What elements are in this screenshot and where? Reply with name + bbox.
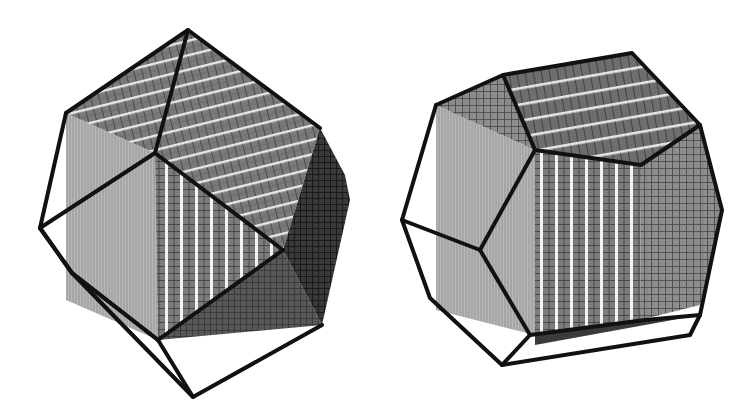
front-striped-face (535, 150, 641, 335)
left-polyhedron (40, 30, 350, 397)
figure (0, 0, 755, 420)
right-polyhedron (402, 53, 722, 365)
